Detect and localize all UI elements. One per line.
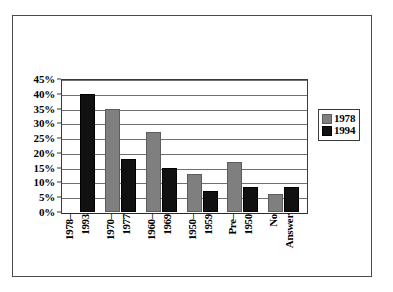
legend-item-label: 1978: [334, 113, 355, 124]
bar-1978-1950-1959: [187, 174, 202, 212]
x-axis-label: No: [268, 214, 280, 227]
y-axis: 45%40%35%30%25%20%15%10%5%0%: [13, 79, 57, 212]
x-axis-label: 1950: [243, 214, 255, 235]
y-axis-tick-label: 5%: [39, 192, 55, 203]
bar-group: [61, 79, 102, 212]
chart-legend: 19781994: [318, 109, 360, 141]
bar-group: [102, 79, 143, 212]
y-axis-tick-label: 35%: [34, 103, 55, 114]
y-axis-tick-label: 40%: [34, 88, 55, 99]
bar-1978-1960-1969: [146, 132, 161, 212]
bar-group: [143, 79, 184, 212]
bar-1978-1970-1977: [105, 109, 120, 212]
legend-item-label: 1994: [334, 125, 355, 136]
bar-group: [265, 79, 306, 212]
x-axis-label: 1969: [162, 214, 174, 235]
x-axis: 1978–19931970–19771960–19691950–1959Pre–…: [61, 214, 306, 276]
gray-swatch-icon: [322, 114, 332, 124]
bar-1978-Pre-1950: [227, 162, 242, 212]
x-axis-label: 1978–: [64, 214, 76, 240]
x-axis-label: 1959: [203, 214, 215, 235]
x-axis-label: 1950–: [187, 214, 199, 240]
bar-group: [184, 79, 225, 212]
x-axis-label: 1977: [121, 214, 133, 235]
figure-frame: 45%40%35%30%25%20%15%10%5%0% 1978–199319…: [12, 15, 372, 277]
y-axis-tick-label: 10%: [34, 177, 55, 188]
bar-1978-No-Answer: [268, 194, 283, 212]
y-axis-tick-label: 45%: [34, 74, 55, 85]
x-axis-label: 1960–: [146, 214, 158, 240]
x-axis-label: 1993: [80, 214, 92, 235]
bar-1994-No-Answer: [284, 187, 299, 212]
x-axis-label: Answer: [284, 214, 296, 248]
bar-1994-1978-1993: [80, 94, 95, 212]
y-axis-tick-label: 0%: [39, 207, 55, 218]
y-axis-tick-label: 25%: [34, 133, 55, 144]
bar-chart: 45%40%35%30%25%20%15%10%5%0% 1978–199319…: [13, 16, 373, 278]
x-axis-label: 1970–: [105, 214, 117, 240]
y-axis-tick-label: 15%: [34, 162, 55, 173]
bar-1994-1970-1977: [121, 159, 136, 212]
legend-item: 1978: [322, 113, 355, 124]
y-axis-tick-label: 20%: [34, 147, 55, 158]
black-swatch-icon: [322, 126, 332, 136]
bar-1994-Pre-1950: [243, 187, 258, 212]
bar-group: [224, 79, 265, 212]
x-axis-label: Pre–: [227, 214, 239, 235]
bars-layer: [61, 79, 306, 212]
bar-1994-1950-1959: [203, 191, 218, 212]
y-axis-tick-label: 30%: [34, 118, 55, 129]
bar-1994-1960-1969: [162, 168, 177, 212]
legend-item: 1994: [322, 125, 355, 136]
